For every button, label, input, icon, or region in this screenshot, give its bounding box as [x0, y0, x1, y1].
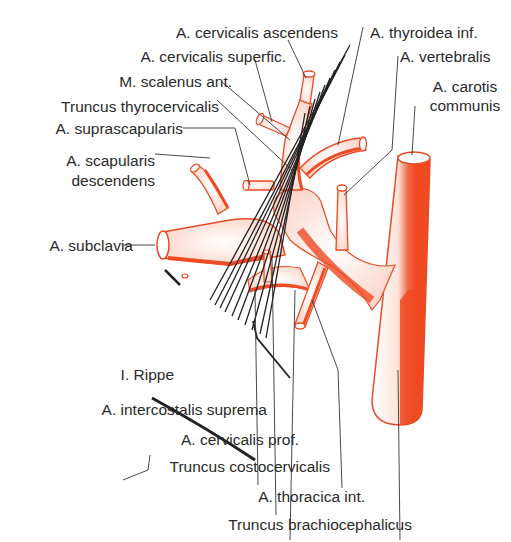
subclavian-artery-illustration: A. cervicalis ascendens A. cervicalis su…: [0, 0, 511, 542]
subclavian-branch: [274, 188, 395, 310]
rib-inner-edge: [165, 270, 180, 285]
suprascapularis-vessel: [243, 181, 274, 191]
label-carotis-line1: A. carotis: [433, 78, 498, 95]
label-cervicalis-ascendens: A. cervicalis ascendens: [176, 24, 338, 41]
label-scalenus-ant: M. scalenus ant.: [119, 73, 232, 90]
vertebralis-vessel: [336, 185, 348, 250]
scapularis-descendens-vessel: [189, 162, 228, 214]
label-cervicalis-prof: A. cervicalis prof.: [181, 431, 299, 448]
label-truncus-brachiocephalicus: Truncus brachiocephalicus: [228, 516, 412, 533]
anatomy-diagram: A. cervicalis ascendens A. cervicalis su…: [0, 0, 511, 542]
label-truncus-costocervicalis: Truncus costocervicalis: [169, 458, 330, 475]
label-carotis-line2: communis: [430, 97, 501, 114]
label-vertebralis: A. vertebralis: [400, 48, 491, 65]
label-rippe: I. Rippe: [121, 366, 174, 383]
label-thoracica-int: A. thoracica int.: [258, 488, 365, 505]
label-suprascapularis: A. suprascapularis: [55, 120, 183, 137]
label-subclavia: A. subclavia: [49, 237, 133, 254]
label-scapularis-desc-line1: A. scapularis: [66, 152, 155, 169]
thyroidea-inf-vessel: [300, 137, 367, 178]
label-cervicalis-superfic: A. cervicalis superfic.: [140, 48, 286, 65]
label-truncus-thyrocervicalis: Truncus thyrocervicalis: [61, 98, 219, 115]
label-scapularis-desc-line2: descendens: [71, 172, 155, 189]
label-thyroidea-inf: A. thyroidea inf.: [370, 24, 478, 41]
label-intercostalis-suprema: A. intercostalis suprema: [102, 401, 268, 418]
